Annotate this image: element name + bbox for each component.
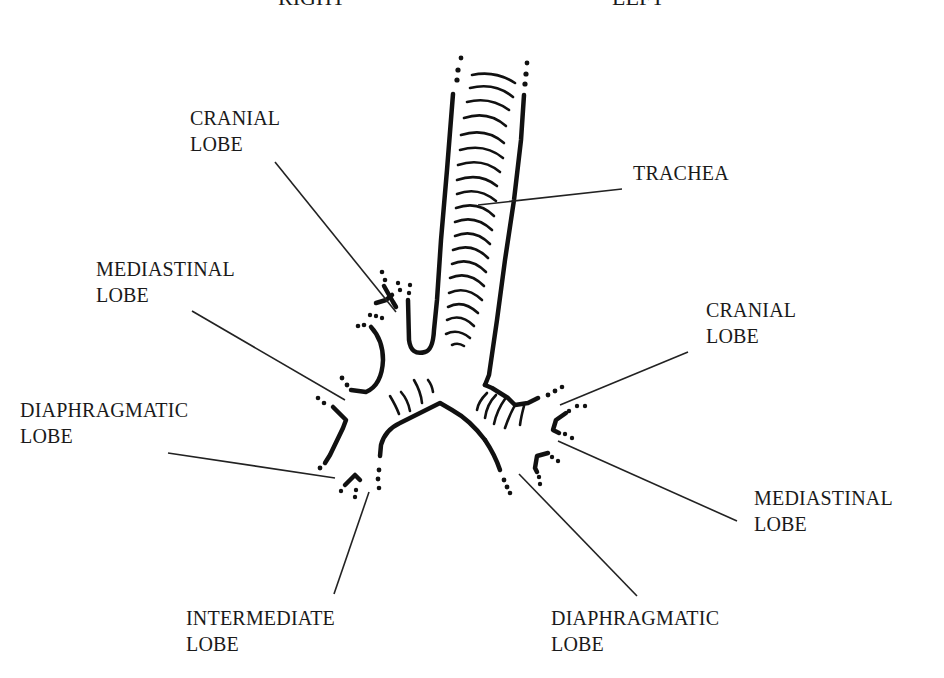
label-right-mediastinal-lobe: MEDIASTINAL LOBE — [96, 256, 235, 308]
label-intermediate-lobe: INTERMEDIATE LOBE — [186, 605, 335, 657]
label-left-diaphragmatic-lobe: DIAPHRAGMATIC LOBE — [551, 605, 719, 657]
trachea-rings — [446, 74, 515, 346]
label-left-cranial-lobe: CRANIAL LOBE — [706, 297, 796, 349]
leader-intermediate — [334, 492, 369, 594]
label-left-mediastinal-lobe: MEDIASTINAL LOBE — [754, 485, 893, 537]
leader-left-cranial — [560, 352, 688, 405]
bronchial-tree-diagram: RIGHT LEFT — [0, 0, 944, 678]
leader-trachea — [478, 189, 622, 205]
leader-right-diaphragmatic — [168, 453, 335, 478]
label-right-cranial-lobe: CRANIAL LOBE — [190, 105, 280, 157]
leader-lines — [168, 162, 737, 596]
label-right-diaphragmatic-lobe: DIAPHRAGMATIC LOBE — [20, 397, 188, 449]
bronchial-tree-drawing — [0, 0, 944, 678]
label-trachea: TRACHEA — [633, 160, 729, 186]
leader-right-mediastinal — [192, 311, 345, 400]
leader-left-mediastinal — [558, 441, 737, 521]
leader-left-diaphragmatic — [519, 474, 637, 596]
leader-right-cranial — [275, 162, 396, 312]
